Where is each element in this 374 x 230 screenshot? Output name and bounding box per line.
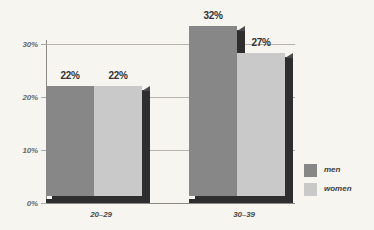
y-axis-label-0: 0%	[10, 199, 38, 208]
y-axis-label-10: 10%	[10, 146, 38, 155]
legend-swatch-men-icon	[304, 164, 317, 177]
value-label-group1-women: 22%	[94, 70, 142, 81]
group1-side-face	[142, 90, 150, 198]
bar-group2-men	[189, 26, 237, 196]
y-axis-label-30: 30%	[10, 40, 38, 49]
legend-swatch-women-icon	[304, 183, 317, 196]
x-axis-label-group2: 30–39	[199, 210, 289, 219]
bar-group1-men	[46, 86, 94, 196]
value-label-group1-men: 22%	[46, 70, 94, 81]
x-axis-label-group1: 20–29	[56, 210, 146, 219]
group1-base-shadow-left	[46, 199, 54, 203]
y-axis-label-20: 20%	[10, 93, 38, 102]
y-tick-mark-0	[41, 203, 47, 204]
group2-women-top-face	[285, 53, 293, 58]
y-tick-mark-30	[41, 44, 47, 45]
group1-base-shadow	[52, 196, 150, 203]
bar-group1-women	[94, 86, 142, 196]
x-axis-line	[46, 203, 295, 204]
value-label-group2-men: 32%	[189, 10, 237, 21]
group2-women-side-face	[285, 57, 293, 196]
legend-label-women: women	[324, 184, 352, 193]
legend-label-men: men	[324, 165, 340, 174]
bar-group2-women	[237, 53, 285, 196]
bar-chart: 30% 20% 10% 0% 22% 22% 32% 27% 20–29 30–…	[0, 0, 374, 230]
group2-base-shadow	[195, 196, 293, 203]
group2-base-shadow-left	[189, 199, 197, 203]
value-label-group2-women: 27%	[237, 37, 285, 48]
